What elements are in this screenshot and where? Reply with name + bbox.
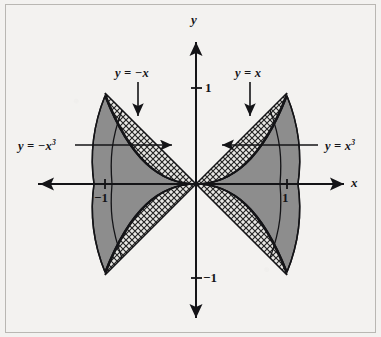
figure-canvas: y x 1 −1 1 −1 y = −x y = x y = −x3 y = x… bbox=[0, 0, 381, 337]
y-tick-label-neg1: −1 bbox=[203, 270, 217, 286]
math-plot-svg bbox=[0, 0, 381, 337]
annotation-cubic-pos-exponent: 3 bbox=[351, 138, 355, 147]
annotation-cubic-pos-base: y = x bbox=[325, 139, 351, 153]
x-tick-label-neg1: −1 bbox=[94, 190, 108, 206]
annotation-cubic-neg-base: y = −x bbox=[18, 139, 52, 153]
annotation-line-pos-x: y = x bbox=[235, 66, 261, 81]
annotation-cubic-pos: y = x3 bbox=[325, 138, 355, 154]
annotation-line-neg-x: y = −x bbox=[115, 66, 149, 81]
x-tick-label-1: 1 bbox=[282, 190, 289, 206]
annotation-cubic-neg-exponent: 3 bbox=[52, 138, 56, 147]
y-tick-label-1: 1 bbox=[205, 80, 212, 96]
x-axis-label: x bbox=[351, 175, 358, 191]
annotation-cubic-neg: y = −x3 bbox=[18, 138, 56, 154]
y-axis-label: y bbox=[191, 12, 197, 28]
